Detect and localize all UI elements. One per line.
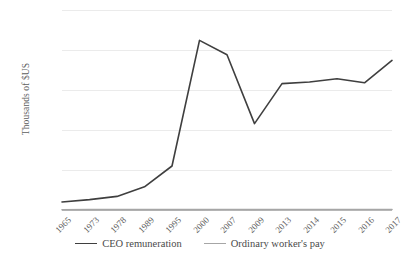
legend-item[interactable]: CEO remuneration (75, 238, 182, 249)
legend-line-icon (75, 243, 97, 244)
series-lines (62, 10, 392, 210)
plot-area (62, 10, 392, 210)
legend-item-label: Ordinary worker's pay (231, 238, 325, 249)
series-line (62, 40, 392, 202)
chart-legend: CEO remunerationOrdinary worker's pay (0, 238, 400, 249)
legend-line-icon (204, 243, 226, 244)
y-axis-title: Thousands of $US (21, 29, 31, 169)
legend-item-label: CEO remuneration (102, 238, 182, 249)
legend-item[interactable]: Ordinary worker's pay (204, 238, 325, 249)
